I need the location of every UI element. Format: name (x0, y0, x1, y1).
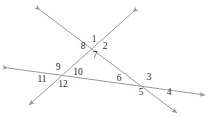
diagram-canvas (0, 0, 215, 124)
angle-label-3: 3 (147, 73, 152, 83)
lines-group (8, 10, 205, 113)
angle-diagram-figure: 1 2 7 8 9 10 11 12 6 3 5 4 (0, 0, 215, 124)
angle-label-1: 1 (92, 35, 97, 45)
angle-label-11: 11 (37, 75, 46, 85)
angle-label-7: 7 (93, 51, 98, 61)
angle-label-2: 2 (103, 42, 108, 52)
angle-label-6: 6 (117, 74, 122, 84)
angle-label-9: 9 (56, 63, 61, 73)
line-b (29, 12, 133, 105)
angle-label-8: 8 (81, 42, 86, 52)
angle-label-4: 4 (167, 88, 172, 98)
angle-label-5: 5 (139, 88, 144, 98)
angle-label-10: 10 (73, 68, 83, 78)
angle-label-12: 12 (58, 80, 68, 90)
